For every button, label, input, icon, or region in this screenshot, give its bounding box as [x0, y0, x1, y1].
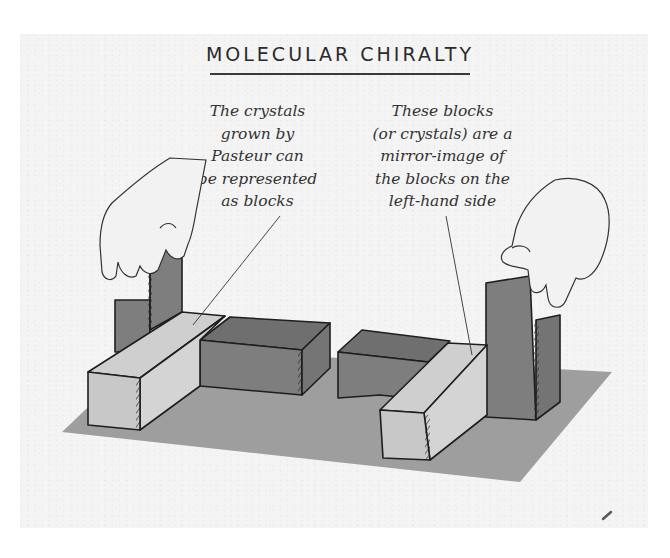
right-upright-block-front [486, 276, 536, 420]
pen-mark [603, 512, 611, 519]
left-light-block-front [88, 372, 140, 430]
right-upright-block-side [536, 315, 560, 420]
left-dark-block-front [200, 340, 302, 395]
left-leader-line [193, 216, 280, 325]
right-leader-line [446, 216, 472, 355]
chirality-illustration [0, 0, 670, 558]
right-light-block-front [380, 410, 430, 460]
left-hand [100, 158, 206, 279]
